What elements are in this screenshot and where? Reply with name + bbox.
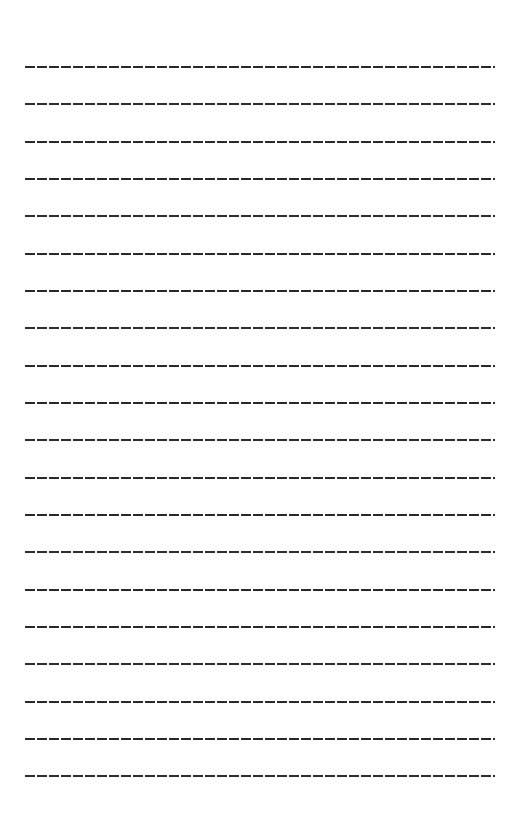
dashed-writing-line — [25, 178, 495, 180]
dashed-writing-line — [25, 141, 495, 143]
dashed-writing-line — [25, 626, 495, 628]
dashed-writing-line — [25, 439, 495, 441]
dashed-writing-line — [25, 477, 495, 479]
lined-page — [0, 0, 521, 820]
dashed-writing-line — [25, 253, 495, 255]
dashed-writing-line — [25, 215, 495, 217]
dashed-writing-line — [25, 402, 495, 404]
dashed-writing-line — [25, 514, 495, 516]
dashed-writing-line — [25, 663, 495, 665]
dashed-writing-line — [25, 290, 495, 292]
dashed-writing-line — [25, 103, 495, 105]
dashed-writing-line — [25, 365, 495, 367]
dashed-writing-line — [25, 738, 495, 740]
dashed-writing-line — [25, 589, 495, 591]
dashed-writing-line — [25, 701, 495, 703]
dashed-writing-line — [25, 327, 495, 329]
dashed-writing-line — [25, 66, 495, 68]
dashed-writing-line — [25, 551, 495, 553]
dashed-writing-line — [25, 775, 495, 777]
